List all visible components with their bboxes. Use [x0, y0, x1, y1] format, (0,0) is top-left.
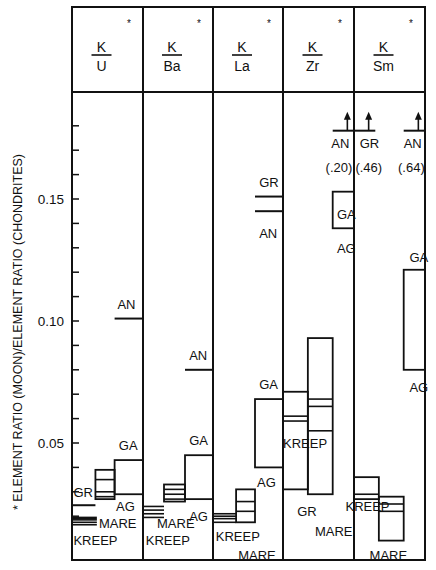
label-20: (.20) — [326, 160, 353, 175]
ratio-numerator: K — [237, 39, 247, 55]
label-ga: GA — [189, 433, 208, 448]
label-an: AN — [259, 226, 277, 241]
column-header-u: KU* — [92, 18, 132, 74]
label-ga: GA — [259, 377, 278, 392]
label-an: AN — [117, 297, 135, 312]
asterisk-marker: * — [409, 18, 413, 29]
column-header-la: KLa* — [232, 18, 271, 74]
label-kreep: KREEP — [73, 533, 117, 548]
label-ga: GA — [337, 207, 356, 222]
series-ag-ga-box — [115, 460, 143, 494]
ratio-denominator: La — [234, 58, 250, 74]
column-header-zr: KZr* — [303, 18, 343, 74]
column-header-ba: KBa* — [162, 18, 201, 74]
label-ag: AG — [257, 475, 276, 490]
label-64: (.64) — [398, 160, 425, 175]
label-ag: AG — [337, 241, 356, 256]
y-tick-label: 0.05 — [38, 436, 64, 451]
ratio-denominator: Zr — [306, 58, 320, 74]
label-an: AN — [404, 136, 422, 151]
label-mare: MARE — [99, 516, 137, 531]
label-46: (.46) — [355, 160, 382, 175]
ratio-denominator: U — [96, 58, 106, 74]
asterisk-marker: * — [197, 18, 201, 29]
label-an: AN — [189, 348, 207, 363]
label-gr: GR — [259, 175, 279, 190]
label-kreep: KREEP — [216, 529, 260, 544]
ratio-denominator: Sm — [373, 58, 394, 74]
column-headers: KU*KBa*KLa*KZr*KSm* — [92, 18, 414, 74]
column-dividers — [143, 7, 354, 560]
label-gr: GR — [297, 504, 317, 519]
series-kreep-mare-box — [308, 338, 333, 494]
data-labels: GRMAREKREEPGAAGANMAREKREEPGAAGANKREEPMAR… — [73, 136, 428, 563]
label-kreep: KREEP — [283, 436, 327, 451]
y-tick-label: 0.10 — [38, 314, 64, 329]
label-gr: GR — [360, 136, 380, 151]
column-header-sm: KSm* — [373, 18, 413, 74]
asterisk-marker: * — [267, 18, 271, 29]
ratio-numerator: K — [308, 39, 318, 55]
chart-figure: * ELEMENT RATIO (MOON)/ELEMENT RATIO (CH… — [0, 0, 436, 570]
y-axis-label: * ELEMENT RATIO (MOON)/ELEMENT RATIO (CH… — [11, 154, 25, 510]
series-mare-box — [95, 470, 114, 499]
ratio-denominator: Ba — [163, 58, 180, 74]
series-ag-ga-box — [185, 455, 213, 499]
arrow-up-icon — [344, 112, 351, 120]
label-ag: AG — [409, 380, 428, 395]
label-mare: MARE — [370, 548, 408, 563]
y-tick-label: 0.15 — [38, 192, 64, 207]
label-ag: AG — [116, 499, 135, 514]
plot-area — [72, 112, 425, 541]
label-gr: GR — [73, 485, 93, 500]
ratio-numerator: K — [97, 39, 107, 55]
ratio-numerator: K — [167, 39, 177, 55]
label-ga: GA — [119, 438, 138, 453]
arrow-up-icon — [415, 112, 422, 120]
asterisk-marker: * — [127, 18, 131, 29]
series-kreep-box — [354, 477, 379, 499]
series-mare-box — [236, 489, 255, 522]
arrow-up-icon — [365, 112, 372, 120]
asterisk-marker: * — [338, 18, 342, 29]
label-ag: AG — [189, 509, 208, 524]
label-mare: MARE — [238, 548, 276, 563]
label-ga: GA — [409, 250, 428, 265]
series-ag-ga-box — [255, 399, 283, 467]
series-ag-ga-box — [404, 270, 425, 370]
ratio-numerator: K — [379, 39, 389, 55]
label-an: AN — [331, 136, 349, 151]
label-kreep: KREEP — [345, 499, 389, 514]
label-kreep: KREEP — [146, 533, 190, 548]
label-mare: MARE — [315, 524, 353, 539]
